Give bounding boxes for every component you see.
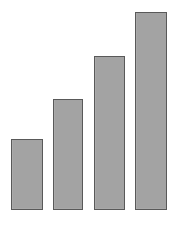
bar-1 — [11, 139, 43, 210]
bar-2 — [53, 99, 83, 210]
bar-4 — [135, 12, 167, 210]
bar-3 — [94, 56, 125, 210]
plot-area — [0, 0, 173, 225]
bar-chart-figure — [0, 0, 173, 225]
